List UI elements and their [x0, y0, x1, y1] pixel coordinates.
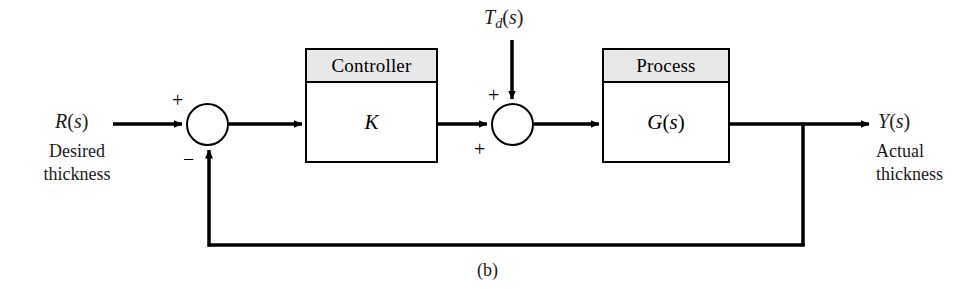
error-junction-plus-sign: +	[172, 90, 183, 110]
controller-block: Controller K	[305, 48, 438, 163]
controller-block-gain: K	[307, 83, 436, 161]
output-signal-name: Y	[878, 110, 889, 132]
process-transfer-function-s: s	[669, 110, 677, 135]
output-description: Actual thickness	[876, 140, 943, 186]
disturbance-signal-name: T	[484, 6, 495, 28]
input-signal-paren-close: )	[82, 110, 89, 132]
disturbance-signal-label: Td(s)	[484, 6, 523, 32]
block-diagram-figure: + − + + Controller K Process G(s) R(s) D…	[0, 0, 975, 289]
disturbance-summing-junction	[491, 103, 534, 146]
input-description: Desired thickness	[31, 140, 123, 186]
process-transfer-function-arg: (	[662, 110, 669, 135]
disturbance-signal-paren-close: )	[517, 6, 524, 28]
output-signal-label: Y(s)	[878, 110, 910, 133]
disturbance-junction-plus-sign-top: +	[488, 85, 499, 105]
input-description-line1: Desired	[31, 140, 123, 163]
process-transfer-function-arg-close: )	[678, 110, 685, 135]
error-junction-minus-sign: −	[183, 149, 194, 169]
output-signal-variable: s	[896, 110, 904, 132]
process-block: Process G(s)	[602, 48, 730, 163]
input-signal-name: R	[55, 110, 67, 132]
controller-block-header: Controller	[307, 50, 436, 83]
process-block-transfer-function: G(s)	[604, 83, 728, 161]
disturbance-signal-paren-open: (	[502, 6, 509, 28]
process-transfer-function-g: G	[647, 110, 662, 135]
input-signal-label: R(s)	[55, 110, 88, 133]
output-description-line1: Actual	[876, 140, 943, 163]
input-signal-variable: s	[74, 110, 82, 132]
disturbance-signal-variable: s	[509, 6, 517, 28]
input-signal-paren-open: (	[67, 110, 74, 132]
signal-wires	[0, 0, 975, 289]
output-signal-paren-open: (	[889, 110, 896, 132]
error-summing-junction	[186, 103, 229, 146]
input-description-line2: thickness	[31, 163, 123, 186]
output-signal-paren-close: )	[904, 110, 911, 132]
figure-caption: (b)	[0, 260, 975, 281]
disturbance-junction-plus-sign-bottom: +	[474, 139, 485, 159]
output-description-line2: thickness	[876, 163, 943, 186]
process-block-header: Process	[604, 50, 728, 83]
